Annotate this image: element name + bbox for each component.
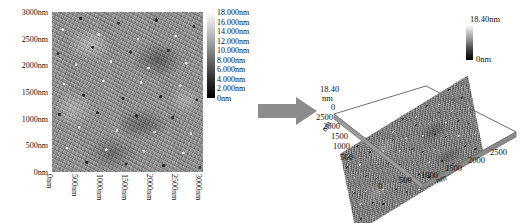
height-colorbar-2d bbox=[207, 12, 215, 98]
colorbar-tick-label: 4.000nm bbox=[217, 75, 245, 84]
origin-label-3d: 0 bbox=[378, 181, 382, 191]
x-tick-label: 0nm bbox=[45, 174, 54, 188]
x-tick-label: 1500nm bbox=[120, 174, 129, 200]
colorbar-tick-label: 18.000nm bbox=[217, 8, 249, 17]
x-axis-3d-tick-label: 2000 bbox=[468, 155, 485, 165]
colorbar-tick-label: 14.000nm bbox=[217, 27, 249, 36]
x-tick-label: 1000nm bbox=[95, 174, 104, 200]
x-tick-label: 2500nm bbox=[170, 174, 179, 200]
colorbar-tick-label: 2.000nm bbox=[217, 84, 245, 93]
y-axis-3d-tick-label: 1000 bbox=[333, 141, 350, 151]
afm-2d-topography-image bbox=[52, 12, 203, 172]
colorbar-3d-min-label: 0nm bbox=[476, 54, 491, 64]
colorbar-2d-labels: 18.000nm 16.000nm 14.000nm 12.000nm 10.0… bbox=[217, 8, 265, 103]
colorbar-tick-label: 10.000nm bbox=[217, 46, 249, 55]
afm-3d-surface-plot bbox=[330, 82, 520, 200]
x-tick-label: 2000nm bbox=[145, 174, 154, 200]
z-axis-min-label: 0 bbox=[331, 102, 335, 112]
colorbar-tick-label: 6.000nm bbox=[217, 65, 245, 74]
colorbar-tick-label: 12.000nm bbox=[217, 37, 249, 46]
y-tick-label: 500nm bbox=[26, 141, 48, 150]
afm-figure: 3000nm 2500nm 2000nm 1500nm 1000nm 500nm… bbox=[0, 0, 522, 223]
y-tick-label: 3000nm bbox=[22, 8, 48, 17]
y-tick-label: 1500nm bbox=[22, 88, 48, 97]
x-tick-label: 500nm bbox=[70, 174, 79, 196]
colorbar-tick-label: 16.000nm bbox=[217, 18, 249, 27]
afm-2d-panel: 3000nm 2500nm 2000nm 1500nm 1000nm 500nm… bbox=[0, 0, 215, 223]
colorbar-gradient-3d bbox=[466, 25, 473, 60]
colorbar-tick-label: 8.000nm bbox=[217, 56, 245, 65]
y-tick-label: 2000nm bbox=[22, 61, 48, 70]
y-axis-3d-tick-label: 1500 bbox=[331, 131, 348, 141]
x-axis-3d-tick-label: 1500 bbox=[445, 163, 462, 173]
x-axis-3d-tick-label: 2500 bbox=[490, 147, 507, 157]
y-tick-label: 1000nm bbox=[22, 114, 48, 123]
y-axis-3d-tick-label: 500 bbox=[340, 152, 353, 162]
colorbar-3d-max-label: 18.40nm bbox=[470, 14, 500, 24]
x-axis-2d: 0nm 500nm 1000nm 1500nm 2000nm 2500nm 30… bbox=[52, 174, 203, 223]
colorbar-gradient-2d bbox=[207, 12, 215, 98]
x-tick-label: 3000nm bbox=[194, 174, 203, 200]
y-axis-2d: 3000nm 2500nm 2000nm 1500nm 1000nm 500nm… bbox=[0, 12, 50, 172]
y-tick-label: 2500nm bbox=[22, 34, 48, 43]
colorbar-tick-label: 0nm bbox=[217, 94, 231, 103]
x-axis-3d-tick-label: 500 bbox=[399, 175, 412, 185]
